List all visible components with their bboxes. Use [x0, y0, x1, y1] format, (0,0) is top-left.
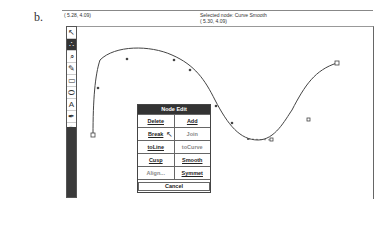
zoom-tool-icon[interactable]: ⌕: [67, 51, 76, 63]
dialog-title: Node Edit: [138, 105, 210, 114]
node-edit-dialog: Node Edit Delete Add Break Join toLine t…: [137, 104, 211, 193]
control-point[interactable]: [247, 138, 249, 140]
end-node[interactable]: [335, 61, 339, 65]
pointer-tool-icon[interactable]: ↖: [67, 27, 76, 39]
join-button[interactable]: Join: [174, 128, 211, 140]
mouse-cursor-icon: ↖: [166, 130, 173, 139]
curve-node[interactable]: [126, 58, 129, 61]
curve-node[interactable]: [97, 87, 100, 90]
toolbox: ↖ ∴ ⌕ ✎ ▭ ⬭ A ✒ ♨: [66, 26, 77, 198]
delete-button[interactable]: Delete: [138, 115, 174, 127]
curve-node[interactable]: [307, 118, 310, 121]
symmet-button[interactable]: Symmet: [174, 167, 211, 179]
curve-node[interactable]: [231, 122, 234, 125]
toolbox-empty-area: [67, 127, 76, 197]
pencil-tool-icon[interactable]: ✎: [67, 63, 76, 75]
curve-node[interactable]: [173, 59, 176, 62]
start-node[interactable]: [91, 133, 95, 137]
selected-node[interactable]: [270, 138, 273, 141]
text-tool-icon[interactable]: A: [67, 99, 76, 111]
to-line-button[interactable]: toLine: [138, 141, 174, 153]
add-button[interactable]: Add: [174, 115, 211, 127]
curve-node[interactable]: [215, 105, 218, 108]
curve-node[interactable]: [189, 69, 192, 72]
align-button[interactable]: Align...: [138, 167, 174, 179]
cancel-button[interactable]: Cancel: [138, 182, 210, 191]
node-edit-tool-icon[interactable]: ∴: [67, 39, 76, 51]
rectangle-tool-icon[interactable]: ▭: [67, 75, 76, 87]
ellipse-tool-icon[interactable]: ⬭: [67, 87, 76, 99]
cusp-button[interactable]: Cusp: [138, 154, 174, 166]
to-curve-button[interactable]: toCurve: [174, 141, 211, 153]
outline-pen-tool-icon[interactable]: ✒: [67, 111, 76, 123]
smooth-button[interactable]: Smooth: [174, 154, 211, 166]
